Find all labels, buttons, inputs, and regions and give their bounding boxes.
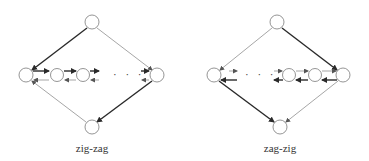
edge-left-bottom xyxy=(219,81,274,122)
node-bottom xyxy=(85,120,99,134)
zag-zig-diagram: · · · zag-zig xyxy=(207,15,350,154)
edge-right-bottom xyxy=(97,81,152,122)
edge-top-right xyxy=(97,28,152,70)
zig-zag-diagram: · · · zig-zag xyxy=(19,15,164,154)
node-chain-1 xyxy=(283,69,296,82)
edge-top-left xyxy=(220,28,272,70)
node-bottom xyxy=(273,120,287,134)
edge-top-left xyxy=(32,28,87,70)
node-chain-1 xyxy=(51,69,64,82)
node-left xyxy=(207,68,221,82)
ellipsis: · · · xyxy=(113,68,145,80)
node-right xyxy=(336,68,350,82)
node-chain-2 xyxy=(309,69,322,82)
ellipsis: · · · xyxy=(245,68,277,80)
diagram-canvas: · · · zig-zag · · · zag-zig xyxy=(0,0,369,161)
node-left xyxy=(19,68,33,82)
node-top xyxy=(85,15,99,29)
node-right xyxy=(150,68,164,82)
diagram-label: zag-zig xyxy=(264,142,297,154)
node-top xyxy=(270,15,284,29)
edge-bottom-left xyxy=(32,81,86,122)
diagram-label: zig-zag xyxy=(76,142,109,154)
edge-right-bottom xyxy=(286,81,338,122)
edge-top-right xyxy=(282,28,337,70)
node-chain-2 xyxy=(77,69,90,82)
